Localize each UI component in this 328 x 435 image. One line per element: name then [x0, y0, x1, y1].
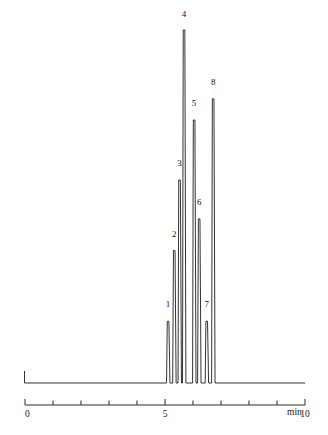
peak-label-2: 2 [172, 229, 177, 239]
time-axis [25, 399, 305, 405]
peak-label-7: 7 [204, 299, 209, 309]
axis-tick-labels: 0510 [25, 409, 310, 419]
tick-label-0: 0 [25, 409, 30, 419]
chromatogram-trace [25, 30, 306, 383]
tick-label-5: 5 [163, 409, 168, 419]
chromatogram-line [25, 30, 306, 383]
axis-unit-label: min [287, 407, 302, 417]
peak-label-3: 3 [177, 158, 182, 168]
peak-label-1: 1 [166, 299, 171, 309]
peak-label-4: 4 [182, 9, 187, 19]
chromatogram-plot: 0510 12345678 min [0, 0, 328, 435]
peak-label-6: 6 [197, 197, 202, 207]
peak-label-5: 5 [192, 98, 197, 108]
chromatogram-figure: 0510 12345678 min [0, 0, 328, 435]
peak-label-8: 8 [211, 77, 216, 87]
